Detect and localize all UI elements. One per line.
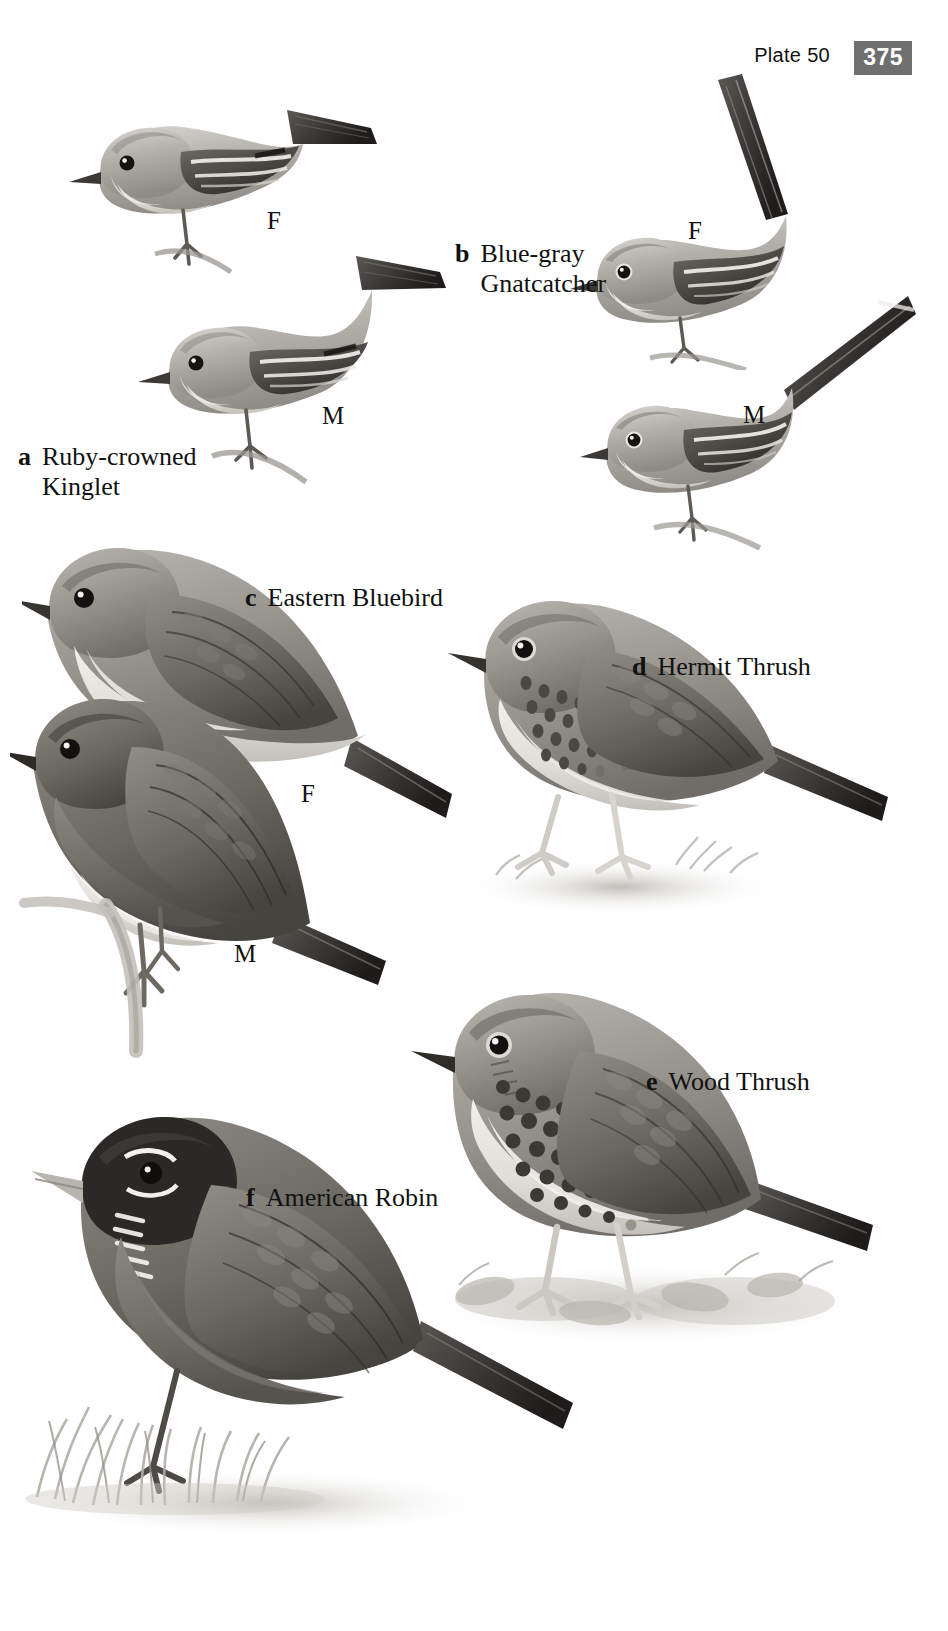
field-guide-plate: Plate 50 375 (0, 0, 948, 1631)
sex-marker-bluebird-male: M (234, 941, 256, 966)
caption-blue-gray-gnatcatcher: bBlue-gray Gnatcatcher (455, 208, 606, 300)
illustration-bluebird-male (10, 655, 410, 1075)
caption-letter-f: f (246, 1183, 255, 1212)
caption-wood-thrush: eWood Thrush (646, 1036, 810, 1097)
caption-name-f: American Robin (266, 1183, 439, 1212)
caption-name-a: Ruby-crowned Kinglet (42, 442, 197, 503)
caption-letter-a: a (18, 442, 31, 471)
caption-name-b: Blue-gray Gnatcatcher (480, 239, 606, 300)
caption-letter-e: e (646, 1067, 658, 1096)
sex-marker-kinglet-male: M (322, 403, 344, 428)
plate-label: Plate 50 (754, 44, 830, 67)
caption-name-d: Hermit Thrush (657, 652, 810, 681)
caption-name-e: Wood Thrush (669, 1067, 810, 1096)
caption-letter-c: c (245, 583, 257, 612)
caption-letter-d: d (632, 652, 646, 681)
caption-hermit-thrush: dHermit Thrush (632, 621, 811, 682)
caption-eastern-bluebird: cEastern Bluebird (245, 552, 443, 613)
caption-letter-b: b (455, 239, 469, 268)
caption-ruby-crowned-kinglet: aRuby-crowned Kinglet (18, 411, 197, 503)
sex-marker-gnatcatcher-female: F (688, 218, 702, 243)
sex-marker-kinglet-female: F (267, 208, 281, 233)
caption-american-robin: fAmerican Robin (246, 1152, 438, 1213)
caption-name-c: Eastern Bluebird (268, 583, 443, 612)
sex-marker-gnatcatcher-male: M (743, 402, 765, 427)
